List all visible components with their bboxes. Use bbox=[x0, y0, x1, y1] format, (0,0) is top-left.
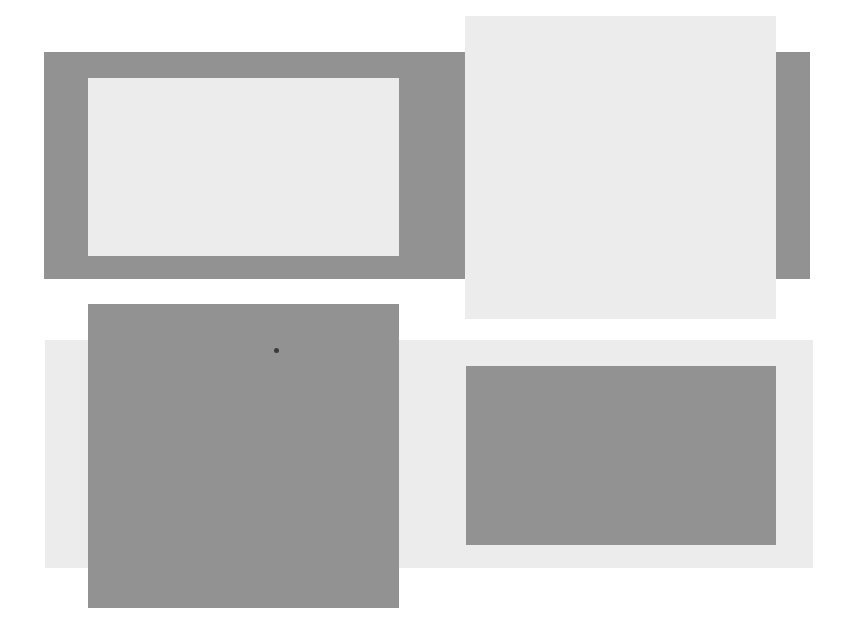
top-left-inner-rect bbox=[88, 78, 399, 256]
top-right-inner-square bbox=[465, 16, 776, 319]
bottom-left-inner-square bbox=[88, 304, 399, 608]
fixation-dot-icon bbox=[274, 348, 279, 353]
bottom-right-inner-rect bbox=[466, 366, 776, 545]
